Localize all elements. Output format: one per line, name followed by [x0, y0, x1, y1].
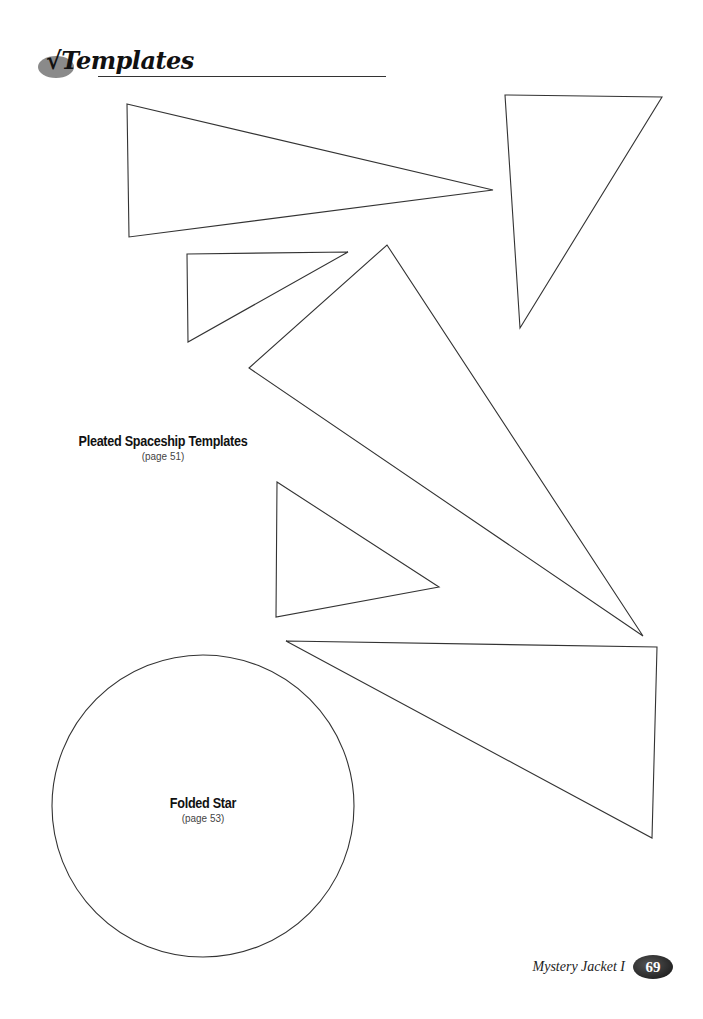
folded-star-label: Folded Star (page 53)	[133, 795, 273, 824]
section-title: Folded Star	[140, 795, 266, 811]
book-title: Mystery Jacket I	[533, 959, 626, 975]
spaceship-triangle-1	[127, 104, 493, 237]
template-shapes	[0, 0, 703, 1019]
spaceship-triangle-4	[249, 245, 643, 636]
spaceship-triangle-6	[286, 641, 657, 838]
spaceship-label: Pleated Spaceship Templates (page 51)	[58, 433, 268, 462]
page-footer: Mystery Jacket I 69	[533, 955, 674, 979]
page-number-badge: 69	[633, 955, 673, 979]
section-title: Pleated Spaceship Templates	[69, 433, 258, 449]
page-reference: (page 53)	[140, 812, 266, 824]
spaceship-triangle-2	[505, 95, 662, 328]
page-reference: (page 51)	[69, 450, 258, 462]
spaceship-triangle-5	[276, 482, 439, 617]
spaceship-triangle-3	[187, 252, 348, 342]
